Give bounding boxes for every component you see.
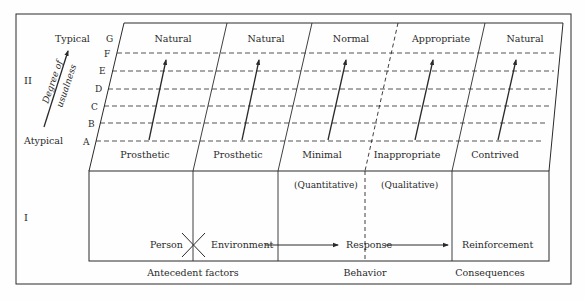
level-b: B	[88, 119, 95, 129]
level-e: E	[99, 66, 106, 76]
column-2-bottom: Prosthetic	[213, 149, 262, 160]
behavior-label: Behavior	[343, 267, 387, 278]
level-g: G	[106, 34, 113, 44]
level-f: F	[104, 49, 110, 59]
column-5-bottom: Contrived	[471, 149, 519, 160]
level-a: A	[82, 137, 90, 147]
reinforcement-label: Reinforcement	[462, 239, 533, 250]
section-label-i: I	[24, 212, 28, 223]
level-c: C	[91, 102, 98, 112]
cross-icon	[182, 233, 205, 257]
person-label: Person	[150, 239, 183, 250]
column-4-bottom: Inappropriate	[374, 149, 441, 160]
level-d: D	[95, 84, 102, 94]
typical-label: Typical	[55, 33, 90, 44]
column-2-top: Natural	[247, 33, 284, 44]
qualitative-label: (Qualitative)	[381, 180, 438, 190]
arrow-icon	[415, 60, 433, 140]
column-4-top: Appropriate	[411, 33, 470, 44]
section-label-ii: II	[24, 75, 32, 86]
arrow-icon	[498, 60, 516, 140]
behavior-diagram: II I Typical Atypical Degree of usualnes…	[0, 0, 585, 301]
column-3-top: Normal	[333, 33, 369, 44]
atypical-label: Atypical	[23, 135, 63, 146]
arrow-icon	[328, 60, 346, 140]
column-5-top: Natural	[506, 33, 543, 44]
environment-label: Environment	[211, 239, 274, 250]
quantitative-label: (Quantitative)	[294, 180, 358, 190]
arrow-icon	[242, 60, 259, 140]
column-arrows	[149, 60, 516, 140]
consequences-label: Consequences	[455, 267, 524, 278]
column-1-bottom: Prosthetic	[120, 149, 169, 160]
arrow-icon	[149, 60, 166, 140]
column-3-bottom: Minimal	[302, 149, 342, 160]
column-1-top: Natural	[154, 33, 191, 44]
antecedent-factors-label: Antecedent factors	[146, 267, 239, 278]
